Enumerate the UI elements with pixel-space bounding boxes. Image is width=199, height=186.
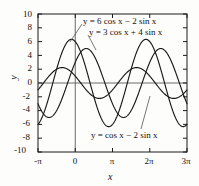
x-tick-pi: π [100,157,124,166]
x-tick-2pi: 2π [137,157,161,166]
leader-lines [70,24,150,129]
y-tick-4: 4 [10,51,32,60]
y-tick-m8: -8 [8,133,30,142]
x-tick-3pi: 3π [174,157,198,166]
y-tick-m4: -4 [8,105,30,114]
curve-label-cos-2sin: y = cos x − 2 sin x [91,131,157,140]
y-tick-8: 8 [10,23,32,32]
curve-label-6cos-2sin: y = 6 cos x − 2 sin x [83,17,156,26]
y-tick-m2: -2 [8,92,30,101]
curve-label-3cos-4sin: y = 3 cos x + 4 sin x [89,28,162,37]
leader-line-6cos-2sin [70,24,82,42]
leader-line-3cos-4sin [88,35,96,50]
y-tick-m6: -6 [8,119,30,128]
y-tick-10: 10 [10,10,32,19]
y-tick-6: 6 [10,37,32,46]
y-axis-label: y [8,75,19,79]
leader-line-cos-2sin [141,96,150,129]
chart-figure: 10 8 6 4 2 0 -2 -4 -6 -8 -10 -π 0 π 2π 3… [0,0,199,186]
x-tick-zero: 0 [63,157,87,166]
y-tick-m10: -10 [4,146,26,155]
x-axis-label: x [108,171,112,182]
x-tick-minus-pi: -π [26,157,50,166]
y-tick-2: 2 [10,64,32,73]
